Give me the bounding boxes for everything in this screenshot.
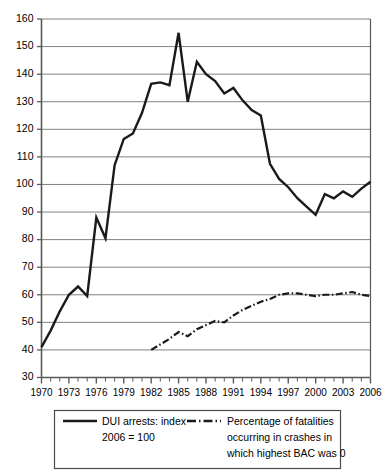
x-tick-label-1994: 1994: [250, 387, 273, 398]
legend-label-pct-fatalities-line2: occurring in crashes in: [227, 431, 332, 443]
legend-label-dui-arrests-line2: 2006 = 100: [102, 431, 155, 443]
legend-label-pct-fatalities-line1: Percentage of fatalities: [227, 415, 334, 427]
chart-figure: 30405060708090100110120130140150160 1970…: [0, 0, 390, 473]
x-tick-label-1991: 1991: [222, 387, 245, 398]
x-tick-label-1997: 1997: [277, 387, 300, 398]
x-tick-label-2003: 2003: [332, 387, 355, 398]
y-tick-label-40: 40: [22, 343, 34, 355]
x-tick-label-2006: 2006: [359, 387, 382, 398]
y-tick-label-150: 150: [16, 39, 34, 51]
y-tick-label-50: 50: [22, 315, 34, 327]
y-tick-label-120: 120: [16, 122, 34, 134]
x-tick-label-2000: 2000: [305, 387, 328, 398]
x-tick-label-1970: 1970: [30, 387, 53, 398]
y-tick-label-70: 70: [22, 260, 34, 272]
x-tick-label-1988: 1988: [195, 387, 218, 398]
x-tick-label-1982: 1982: [140, 387, 163, 398]
y-tick-label-80: 80: [22, 232, 34, 244]
y-tick-label-30: 30: [22, 370, 34, 382]
x-tick-label-1979: 1979: [113, 387, 136, 398]
legend-label-pct-fatalities-line3: which highest BAC was 0: [226, 447, 346, 459]
x-tick-label-1985: 1985: [167, 387, 190, 398]
y-tick-label-130: 130: [16, 95, 34, 107]
legend-label-dui-arrests-line1: DUI arrests: index: [102, 415, 187, 427]
y-tick-label-110: 110: [17, 150, 34, 162]
y-tick-label-140: 140: [16, 67, 34, 79]
chart-legend: DUI arrests: index 2006 = 100 Percentage…: [55, 411, 346, 469]
y-tick-label-160: 160: [16, 12, 34, 24]
dui-arrests-line-chart: 30405060708090100110120130140150160 1970…: [0, 0, 390, 473]
y-tick-label-90: 90: [22, 205, 34, 217]
y-tick-label-60: 60: [22, 288, 34, 300]
x-tick-label-1976: 1976: [85, 387, 108, 398]
x-tick-label-1973: 1973: [58, 387, 81, 398]
y-tick-label-100: 100: [16, 177, 34, 189]
